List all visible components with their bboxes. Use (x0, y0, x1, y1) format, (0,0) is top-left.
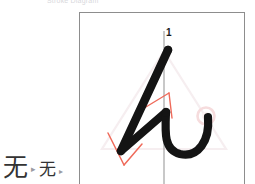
breadcrumb: 无 ▸ 无 ▸ (3, 150, 63, 180)
breadcrumb-arrow-1[interactable]: ▸ (31, 165, 36, 180)
breadcrumb-char-primary[interactable]: 无 (3, 155, 28, 180)
stroke-diagram-canvas (80, 13, 245, 184)
clipped-header-strip: Stroke Diagram (47, 0, 107, 6)
clipped-header-text: Stroke Diagram (47, 0, 107, 4)
stroke-diagram-panel: 1 (79, 12, 245, 184)
breadcrumb-arrow-2[interactable]: ▸ (59, 168, 63, 180)
breadcrumb-char-secondary[interactable]: 无 (39, 161, 56, 180)
stroke-number-label: 1 (166, 27, 172, 38)
